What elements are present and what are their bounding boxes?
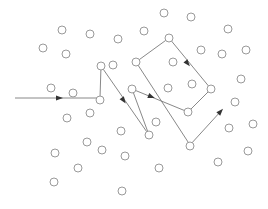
point-node bbox=[188, 80, 196, 88]
point-node bbox=[109, 61, 117, 69]
point-node bbox=[74, 164, 82, 172]
point-node bbox=[242, 46, 250, 54]
point-node bbox=[184, 108, 192, 116]
point-node bbox=[237, 75, 245, 83]
point-node bbox=[244, 147, 252, 155]
point-node bbox=[186, 142, 194, 150]
point-node bbox=[224, 25, 232, 33]
arrowhead-icon bbox=[56, 95, 63, 100]
point-node bbox=[62, 50, 70, 58]
point-node bbox=[160, 9, 168, 17]
point-node bbox=[155, 164, 163, 172]
point-node bbox=[63, 114, 71, 122]
point-node bbox=[69, 89, 77, 97]
point-node bbox=[145, 131, 153, 139]
point-node bbox=[58, 26, 66, 34]
point-node bbox=[121, 152, 129, 160]
point-node bbox=[197, 46, 205, 54]
point-node bbox=[231, 98, 239, 106]
point-node bbox=[98, 146, 106, 154]
point-node bbox=[249, 120, 257, 128]
point-node bbox=[132, 58, 140, 66]
point-node bbox=[47, 84, 55, 92]
arrowhead-icon bbox=[120, 96, 128, 105]
point-node bbox=[164, 84, 172, 92]
point-node bbox=[214, 158, 222, 166]
point-node bbox=[165, 34, 173, 42]
point-node bbox=[152, 118, 160, 126]
point-node bbox=[50, 178, 58, 186]
point-node bbox=[83, 138, 91, 146]
point-node bbox=[117, 127, 125, 135]
point-node bbox=[96, 96, 104, 104]
point-nodes bbox=[39, 9, 257, 195]
point-node bbox=[86, 30, 94, 38]
point-node bbox=[207, 85, 215, 93]
point-node bbox=[97, 62, 105, 70]
point-node bbox=[114, 35, 122, 43]
point-node bbox=[128, 85, 136, 93]
point-node bbox=[225, 124, 233, 132]
point-node bbox=[140, 27, 148, 35]
point-node bbox=[118, 187, 126, 195]
arrowhead-icon bbox=[147, 93, 155, 100]
point-node bbox=[86, 109, 94, 117]
point-node bbox=[218, 50, 226, 58]
diagram-canvas bbox=[0, 0, 268, 209]
point-node bbox=[39, 44, 47, 52]
point-node bbox=[187, 13, 195, 21]
point-node bbox=[169, 58, 177, 66]
point-node bbox=[51, 149, 59, 157]
arrowheads bbox=[56, 59, 225, 115]
